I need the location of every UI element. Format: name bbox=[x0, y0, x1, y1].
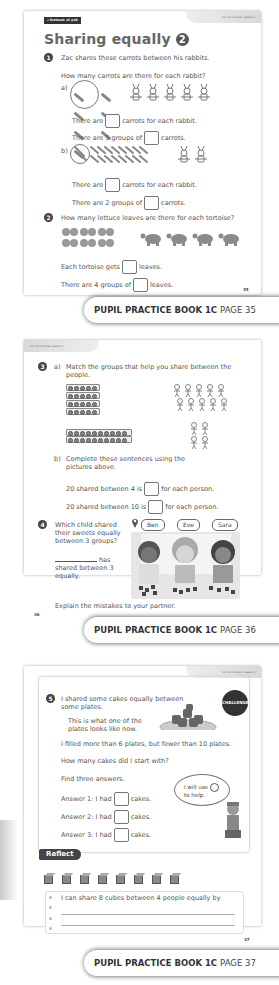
q1a-sentence2: There are 5 groups ofcarrots. bbox=[72, 131, 186, 145]
q5-answer-3: Answer 3: I hadcakes. bbox=[61, 828, 151, 842]
answer-box[interactable] bbox=[144, 196, 159, 210]
sentence-text: leaves. bbox=[139, 263, 162, 271]
sentence-text: There are 5 groups of bbox=[72, 134, 142, 142]
bullet-dot bbox=[49, 906, 52, 909]
reflect-badge: Reflect bbox=[39, 849, 81, 860]
sentence-text: 20 shared between 4 is bbox=[66, 485, 142, 493]
speech-text: I will use bbox=[184, 784, 208, 790]
page-banner-35: PUPIL PRACTICE BOOK 1CPAGE 35 bbox=[84, 297, 279, 323]
page-label: PAGE 35 bbox=[220, 305, 256, 315]
unit-tag: Unit 13: Division, Lesson 4 bbox=[186, 11, 261, 23]
title-text: Sharing equally bbox=[44, 31, 171, 47]
q1b-sentence1: There arecarrots for each rabbit. bbox=[72, 178, 197, 192]
q4-explain: Explain the mistakes to your partner. bbox=[55, 602, 176, 610]
book-name: PUPIL PRACTICE BOOK 1C bbox=[94, 958, 217, 968]
q2-sentence1: Each tortoise getsleaves. bbox=[61, 260, 162, 274]
q4-question: Which child shared their sweets equally … bbox=[55, 521, 127, 545]
answer-box[interactable] bbox=[114, 810, 129, 824]
q5-answer-1: Answer 1: I hadcakes. bbox=[61, 792, 151, 806]
carrot-icon bbox=[100, 92, 111, 102]
writing-line bbox=[61, 914, 235, 915]
q5-line2: This is what one of the plates looks lik… bbox=[68, 717, 158, 733]
page-number: 36 bbox=[34, 612, 40, 617]
answer-blank[interactable] bbox=[55, 555, 97, 562]
q2-sentence2: There are 4 groups ofleaves. bbox=[61, 278, 173, 292]
textbook-link-badge[interactable]: ◂ Textbook 1C p48 bbox=[44, 17, 81, 24]
cube-icon bbox=[170, 875, 179, 884]
reflect-prompt: I can share 8 cubes between 4 people equ… bbox=[61, 894, 220, 902]
cube-icon bbox=[116, 875, 125, 884]
rabbits-a bbox=[128, 83, 218, 103]
page-banner-37: PUPIL PRACTICE BOOK 1CPAGE 37 bbox=[84, 950, 279, 976]
sentence-text: carrots. bbox=[161, 199, 186, 207]
reflect-writing-area[interactable]: I can share 8 cubes between 4 people equ… bbox=[45, 891, 244, 934]
q5-line3: I filled more than 6 plates, but fewer t… bbox=[61, 740, 231, 748]
people-groups bbox=[172, 384, 234, 450]
children-illustration bbox=[131, 532, 240, 599]
answer-box[interactable] bbox=[144, 482, 159, 496]
carrot-icon bbox=[73, 92, 84, 102]
sentence-text: There are bbox=[72, 117, 103, 125]
rabbits-b bbox=[176, 145, 216, 165]
book-name: PUPIL PRACTICE BOOK 1C bbox=[94, 625, 217, 635]
answer-box[interactable] bbox=[114, 828, 129, 842]
sentence-text: There are bbox=[72, 181, 103, 189]
q3-sentence2: 20 shared between 10 isfor each person. bbox=[66, 500, 218, 514]
counter-row bbox=[66, 429, 132, 436]
q1-part-b-label: b) bbox=[61, 147, 68, 155]
unit-tag: Unit 13: Division, Lesson 4 bbox=[24, 340, 99, 352]
cube-icon bbox=[134, 875, 143, 884]
cube-icon bbox=[152, 875, 161, 884]
carrot-icon bbox=[75, 147, 147, 162]
page-number: 35 bbox=[243, 287, 249, 292]
page-title: Sharing equally 2 bbox=[44, 31, 189, 47]
q3-sentence1: 20 shared between 4 isfor each person. bbox=[66, 482, 214, 496]
answer-box[interactable] bbox=[144, 131, 159, 145]
book-name: PUPIL PRACTICE BOOK 1C bbox=[94, 305, 217, 315]
title-number-badge: 2 bbox=[176, 33, 189, 46]
answer-box[interactable] bbox=[133, 278, 148, 292]
counter-row bbox=[66, 408, 100, 415]
page-number: 37 bbox=[244, 937, 250, 942]
bullet-dot bbox=[49, 927, 52, 930]
sentence-text: for each person. bbox=[165, 503, 218, 511]
q1-line2: How many carrots are there for each rabb… bbox=[61, 72, 206, 80]
q5-answer-2: Answer 2: I hadcakes. bbox=[61, 810, 151, 824]
counter-row bbox=[66, 436, 132, 443]
bullet-dot bbox=[49, 917, 52, 920]
cube-icon bbox=[44, 875, 53, 884]
rabbit-icon bbox=[130, 84, 210, 100]
sentence-text: carrots for each rabbit. bbox=[122, 181, 197, 189]
lettuce-and-tortoises bbox=[60, 226, 260, 256]
cube-icon bbox=[80, 875, 89, 884]
q3-part-a-label: a) bbox=[54, 363, 61, 371]
q4-answer-sentence: has shared between 3 equally. bbox=[55, 555, 127, 580]
q1a-sentence1: There arecarrots for each rabbit. bbox=[72, 114, 197, 128]
sentence-text: Answer 2: I had bbox=[61, 813, 112, 821]
carrot-group-b bbox=[72, 144, 172, 168]
sentence-text: 20 shared between 10 is bbox=[66, 503, 146, 511]
answer-box[interactable] bbox=[105, 114, 120, 128]
q1-line1: Zac shares these carrots between his rab… bbox=[61, 54, 210, 62]
q3-part-b-text: Complete these sentences using the pictu… bbox=[66, 455, 206, 471]
sentence-text: cakes. bbox=[131, 813, 152, 821]
q5-line4: How many cakes did I start with? bbox=[61, 757, 169, 765]
sentence-text: for each person. bbox=[161, 485, 214, 493]
answer-box[interactable] bbox=[114, 792, 129, 806]
name-bubble-eve: Eve bbox=[177, 519, 200, 531]
question-number-4: 4 bbox=[38, 520, 47, 529]
q1b-sentence2: There are 2 groups ofcarrots. bbox=[72, 196, 186, 210]
answer-box[interactable] bbox=[148, 500, 163, 514]
answer-box[interactable] bbox=[122, 260, 137, 274]
answer-box[interactable] bbox=[105, 178, 120, 192]
counter-ring-icon bbox=[210, 783, 219, 792]
counter-row bbox=[66, 384, 100, 391]
counter-row bbox=[66, 400, 100, 407]
sentence-text: cakes. bbox=[131, 795, 152, 803]
sentence-text: carrots for each rabbit. bbox=[122, 117, 197, 125]
hint-marker-icon bbox=[131, 517, 139, 529]
q5-line5: Find three answers. bbox=[61, 775, 125, 783]
q3-part-a-text: Match the groups that help you share bet… bbox=[66, 363, 246, 379]
page-edge-shadow bbox=[0, 820, 18, 900]
sentence-text: Each tortoise gets bbox=[61, 263, 120, 271]
